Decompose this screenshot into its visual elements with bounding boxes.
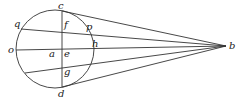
label-h: h <box>92 38 98 49</box>
label-o: o <box>8 44 14 55</box>
label-f: f <box>63 19 70 30</box>
label-q: q <box>14 18 20 29</box>
label-p: p <box>86 21 93 32</box>
label-e: e <box>64 48 70 59</box>
label-g: g <box>64 66 70 77</box>
label-c: c <box>58 0 64 11</box>
line-lower-b <box>25 46 226 73</box>
line-o-b <box>16 46 226 50</box>
label-d: d <box>58 88 64 99</box>
geometry-diagram: c q f p o a e h g d b <box>0 0 245 99</box>
label-a: a <box>49 48 55 59</box>
line-q-b <box>21 29 226 46</box>
line-d-b <box>62 46 226 87</box>
label-b: b <box>229 40 235 51</box>
